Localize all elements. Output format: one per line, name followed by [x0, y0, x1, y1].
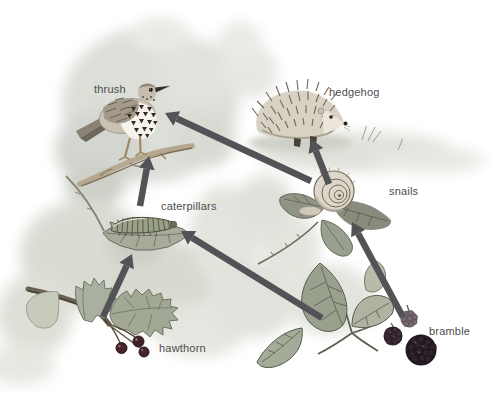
caterpillar-head [170, 221, 176, 227]
hedgehog-eye [329, 115, 333, 119]
label-snails: snails [389, 186, 418, 197]
snail-foot [299, 207, 321, 216]
blackberry [384, 327, 403, 346]
hedgehog-ear [318, 108, 324, 114]
diagram-canvas [0, 0, 496, 393]
hawthorn-berry [116, 343, 127, 354]
label-hawthorn: hawthorn [159, 343, 206, 354]
blackberry-large [406, 335, 437, 366]
background-washes [0, 17, 485, 385]
hawthorn-berry [133, 336, 144, 347]
label-hedgehog: hedgehog [329, 87, 380, 98]
label-bramble: bramble [429, 326, 470, 337]
food-web-diagram: thrush hedgehog caterpillars snails hawt… [0, 0, 496, 393]
hawthorn-berry [139, 347, 149, 357]
label-thrush: thrush [94, 84, 126, 95]
thrush-eye [149, 88, 153, 92]
snail-leaf [321, 220, 352, 256]
label-caterpillars: caterpillars [161, 201, 217, 212]
